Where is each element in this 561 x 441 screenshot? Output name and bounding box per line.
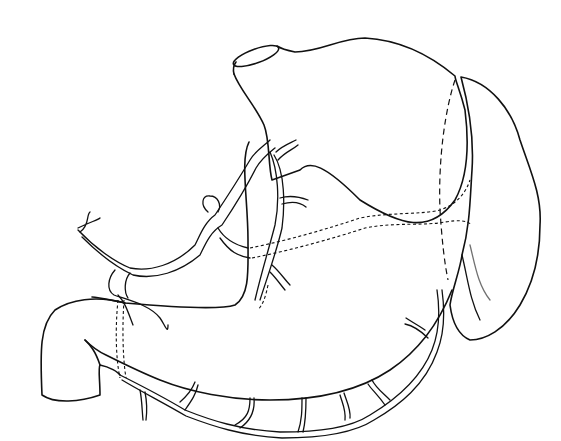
esophagus [231,41,281,74]
posterior-vessels [116,80,472,378]
greater-curvature-vessels [120,290,444,438]
stomach-illustration [0,0,561,441]
spleen [450,77,540,340]
stomach [41,38,467,401]
